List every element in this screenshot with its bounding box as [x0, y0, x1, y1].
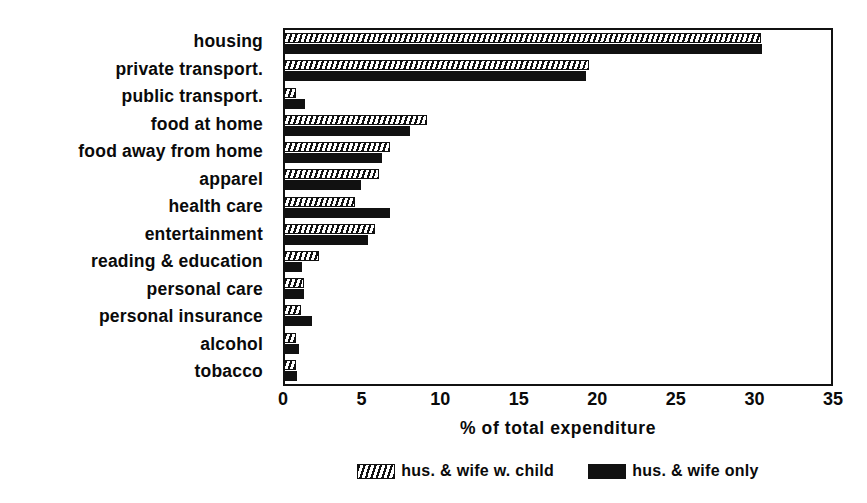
bar-hatched	[285, 197, 355, 207]
bar-solid	[285, 44, 762, 54]
hatched-swatch-icon	[357, 464, 395, 479]
bar-solid	[285, 180, 361, 190]
bar-group	[285, 357, 831, 384]
x-tick-label: 10	[430, 390, 450, 408]
bar-group	[285, 330, 831, 357]
x-tick-label: 25	[666, 390, 686, 408]
bar-hatched	[285, 88, 296, 98]
bar-solid	[285, 371, 297, 381]
bar-solid	[285, 235, 368, 245]
legend-label: hus. & wife only	[632, 462, 759, 480]
bar-solid	[285, 99, 305, 109]
bar-hatched	[285, 305, 301, 315]
bar-group	[285, 193, 831, 220]
category-label: entertainment	[0, 221, 272, 249]
category-label: health care	[0, 193, 272, 221]
legend-item[interactable]: hus. & wife w. child	[357, 462, 554, 480]
x-axis-tick-labels: 05101520253035	[283, 390, 833, 414]
bar-group	[285, 112, 831, 139]
x-tick-label: 0	[278, 390, 288, 408]
bar-group	[285, 84, 831, 111]
category-label: alcohol	[0, 331, 272, 359]
solid-swatch-icon	[588, 464, 626, 479]
category-label: apparel	[0, 166, 272, 194]
x-axis-title: % of total expenditure	[283, 418, 833, 439]
bar-hatched	[285, 169, 379, 179]
legend-label: hus. & wife w. child	[401, 462, 554, 480]
bar-group	[285, 166, 831, 193]
bar-group	[285, 139, 831, 166]
category-label: reading & education	[0, 248, 272, 276]
legend-item[interactable]: hus. & wife only	[588, 462, 759, 480]
bar-solid	[285, 126, 410, 136]
bar-hatched	[285, 33, 761, 43]
category-label: housing	[0, 28, 272, 56]
bar-solid	[285, 262, 302, 272]
bar-hatched	[285, 142, 390, 152]
bar-group	[285, 302, 831, 329]
category-label: food at home	[0, 111, 272, 139]
bar-group	[285, 221, 831, 248]
x-tick-label: 35	[823, 390, 843, 408]
bar-groups	[285, 30, 831, 384]
category-label: tobacco	[0, 358, 272, 386]
bar-hatched	[285, 60, 589, 70]
category-axis-labels: housingprivate transport.public transpor…	[0, 28, 272, 386]
chart-page: housingprivate transport.public transpor…	[0, 0, 867, 503]
bar-solid	[285, 316, 312, 326]
category-label: private transport.	[0, 56, 272, 84]
category-label: public transport.	[0, 83, 272, 111]
chart-legend: hus. & wife w. childhus. & wife only	[283, 462, 833, 480]
bar-solid	[285, 208, 390, 218]
bar-hatched	[285, 278, 304, 288]
category-label: food away from home	[0, 138, 272, 166]
bar-solid	[285, 344, 299, 354]
bar-group	[285, 275, 831, 302]
bar-hatched	[285, 333, 296, 343]
plot-area	[283, 28, 833, 386]
bar-solid	[285, 153, 382, 163]
x-tick-label: 20	[587, 390, 607, 408]
bar-hatched	[285, 360, 296, 370]
category-label: personal insurance	[0, 303, 272, 331]
bar-hatched	[285, 224, 375, 234]
bar-solid	[285, 289, 304, 299]
bar-group	[285, 57, 831, 84]
bar-hatched	[285, 251, 319, 261]
x-tick-label: 30	[744, 390, 764, 408]
x-tick-label: 15	[509, 390, 529, 408]
bar-solid	[285, 71, 586, 81]
bar-hatched	[285, 115, 427, 125]
bar-group	[285, 30, 831, 57]
category-label: personal care	[0, 276, 272, 304]
x-tick-label: 5	[357, 390, 367, 408]
bar-group	[285, 248, 831, 275]
